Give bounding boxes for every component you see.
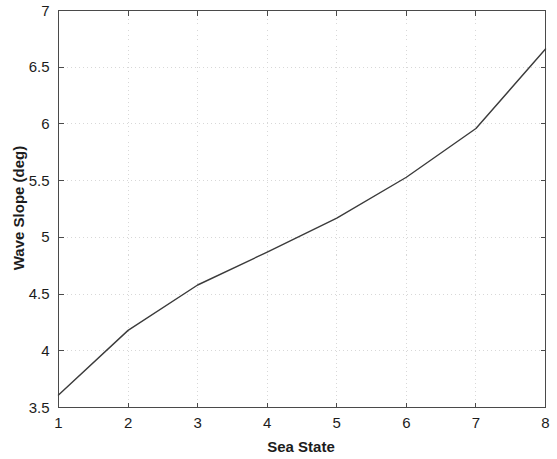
y-tick-label: 6.5	[29, 58, 50, 75]
y-tick-label: 6	[41, 115, 49, 132]
y-tick-label: 5	[41, 228, 49, 245]
x-tick-label: 3	[193, 414, 201, 431]
x-tick-label: 8	[541, 414, 549, 431]
x-tick-label: 7	[472, 414, 480, 431]
y-tick-label: 4.5	[29, 285, 50, 302]
y-axis-title: Wave Slope (deg)	[10, 146, 27, 270]
y-tick-label: 7	[41, 2, 49, 19]
x-tick-label: 2	[124, 414, 132, 431]
y-tick-label: 4	[41, 342, 49, 359]
y-tick-label: 3.5	[29, 399, 50, 416]
x-tick-label: 4	[263, 414, 271, 431]
x-tick-label: 1	[54, 414, 62, 431]
wave-slope-line-chart: 12345678 3.544.555.566.57 Sea State Wave…	[0, 0, 557, 459]
x-axis-title: Sea State	[267, 438, 335, 455]
y-tick-label: 5.5	[29, 172, 50, 189]
x-tick-label: 6	[402, 414, 410, 431]
x-tick-label: 5	[333, 414, 341, 431]
chart-figure: 12345678 3.544.555.566.57 Sea State Wave…	[0, 0, 557, 459]
chart-background	[0, 0, 557, 459]
